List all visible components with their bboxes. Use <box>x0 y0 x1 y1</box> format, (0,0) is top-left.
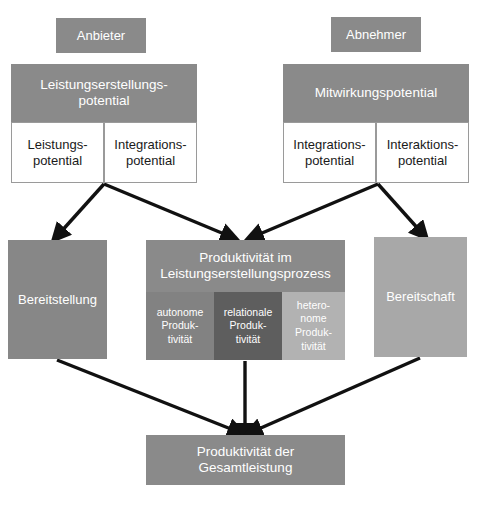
process-cell-relational: relationale Produk- tivität <box>214 292 282 360</box>
process-cell-autonomous: autonome Produk- tivität <box>146 292 214 360</box>
arrow-provider-to-provision <box>59 184 104 234</box>
customer-integration-potential-box: Integrations- potential <box>283 122 376 183</box>
diagram-canvas: Anbieter Abnehmer Leistungserstellungs- … <box>0 0 480 508</box>
customer-potential-header-box: Mitwirkungspotential <box>283 64 469 122</box>
actor-provider-label: Anbieter <box>73 28 129 43</box>
provision-box: Bereitstellung <box>8 240 107 359</box>
actor-customer-label: Abnehmer <box>342 27 410 42</box>
process-productivity-group: Produktivität im Leistungserstellungspro… <box>146 240 345 360</box>
total-productivity-label: Produktivität der Gesamtleistung <box>193 444 299 476</box>
arrow-provision-to-result <box>57 360 236 431</box>
provider-service-potential-label: Leistungs- potential <box>24 137 92 168</box>
customer-potential-header-label: Mitwirkungspotential <box>311 85 441 101</box>
provider-potential-header-label: Leistungserstellungs- potential <box>36 77 172 109</box>
process-cell-autonomous-label: autonome Produk- tivität <box>153 306 208 347</box>
customer-interaction-potential-box: Interaktions- potential <box>376 122 469 183</box>
provider-integration-potential-box: Integrations- potential <box>104 122 197 183</box>
process-productivity-header-label: Produktivität im Leistungserstellungspro… <box>156 250 334 282</box>
customer-integration-potential-label: Integrations- potential <box>289 137 369 168</box>
arrow-willingness-to-result <box>254 358 420 431</box>
willingness-box: Bereitschaft <box>374 237 467 357</box>
provider-integration-potential-label: Integrations- potential <box>110 137 190 168</box>
arrow-customer-to-process <box>255 184 378 236</box>
provider-potential-header-box: Leistungserstellungs- potential <box>11 64 197 122</box>
process-cell-relational-label: relationale Produk- tivität <box>220 306 276 347</box>
actor-customer-box: Abnehmer <box>331 17 421 52</box>
provider-service-potential-box: Leistungs- potential <box>11 122 104 183</box>
arrow-provider-to-process <box>104 184 229 236</box>
willingness-label: Bereitschaft <box>382 289 459 304</box>
customer-interaction-potential-label: Interaktions- potential <box>383 137 463 168</box>
arrow-customer-to-willingness <box>378 184 421 232</box>
process-productivity-header: Produktivität im Leistungserstellungspro… <box>146 240 345 292</box>
process-cell-heteronomous: hetero- nome Produk- tivität <box>282 292 345 360</box>
provision-label: Bereitstellung <box>14 292 101 307</box>
process-cell-heteronomous-label: hetero- nome Produk- tivität <box>291 299 336 354</box>
actor-provider-box: Anbieter <box>56 18 146 53</box>
total-productivity-box: Produktivität der Gesamtleistung <box>146 435 345 485</box>
